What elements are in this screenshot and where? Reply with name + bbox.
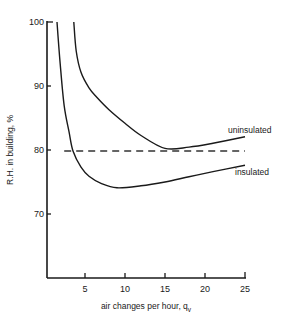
- x-tick-label-5: 5: [82, 284, 87, 294]
- y-tick-label-100: 100: [29, 17, 44, 27]
- series-label-insulated: insulated: [235, 167, 269, 177]
- x-axis-title-subscript: v: [188, 306, 192, 313]
- x-axis-title: air changes per hour, qv: [101, 301, 192, 313]
- series-label-uninsulated: uninsulated: [228, 125, 272, 135]
- x-tick-label-25: 25: [240, 284, 250, 294]
- series-line-insulated: [57, 22, 245, 188]
- rh-vs-air-changes-chart: 100 90 80 70 5 10 15 20 25 R.H. in build…: [0, 0, 288, 318]
- x-axis-title-main: air changes per hour, q: [101, 301, 188, 311]
- y-tick-label-70: 70: [34, 209, 44, 219]
- x-tick-label-20: 20: [200, 284, 210, 294]
- y-axis-title: R.H. in building, %: [5, 115, 15, 185]
- chart-canvas: 100 90 80 70 5 10 15 20 25 R.H. in build…: [0, 0, 288, 318]
- x-tick-label-15: 15: [160, 284, 170, 294]
- x-tick-label-10: 10: [120, 284, 130, 294]
- y-tick-label-80: 80: [34, 145, 44, 155]
- y-tick-label-90: 90: [34, 81, 44, 91]
- y-axis-ticks: 100 90 80 70: [29, 17, 53, 219]
- x-axis-ticks: 5 10 15 20 25: [82, 272, 250, 294]
- series-line-uninsulated: [74, 22, 245, 149]
